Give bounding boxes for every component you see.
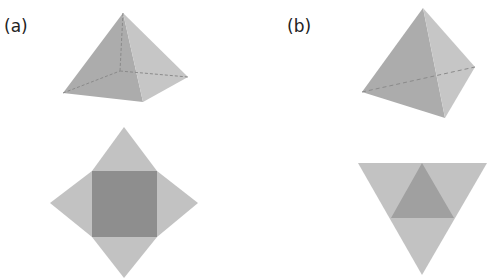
square-pyramid-solid	[63, 13, 188, 102]
figure-canvas	[0, 0, 489, 279]
square-pyramid-net	[50, 127, 198, 278]
tetrahedron-solid	[362, 8, 475, 118]
tetrahedron-net	[358, 163, 487, 275]
